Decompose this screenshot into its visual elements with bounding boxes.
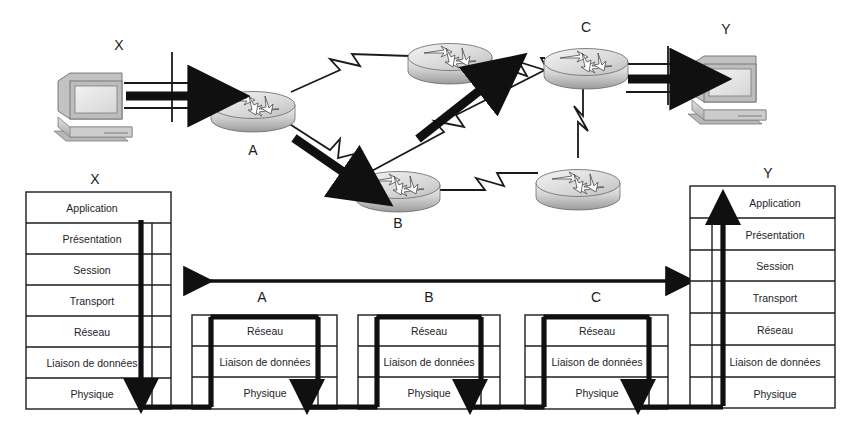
stack-x-layer-application: Application [66, 202, 118, 214]
stack-y-layer-session: Session [756, 260, 794, 272]
link-c-lowerright [574, 80, 588, 158]
osi-network-diagram: X A C B Y X Application Présentation [0, 0, 858, 429]
stack-c-title: C [591, 289, 601, 305]
stack-c-layer-liaison: Liaison de données [551, 356, 642, 368]
flow-b-to-c-arrow [418, 84, 488, 139]
stack-a-title: A [257, 289, 267, 305]
stack-b-layer-reseau: Réseau [411, 325, 447, 337]
stack-y-layer-application: Application [749, 197, 801, 209]
link-b-lowerright [438, 173, 538, 190]
stack-x-layer-liaison: Liaison de données [46, 357, 137, 369]
stack-c-layer-reseau: Réseau [579, 325, 615, 337]
topology-label-x: X [114, 37, 124, 53]
stack-c-layer-physique: Physique [575, 387, 618, 399]
diagram-canvas: X A C B Y X Application Présentation [0, 0, 858, 429]
stack-y-layer-presentation: Présentation [746, 229, 805, 241]
stack-y-layer-reseau: Réseau [757, 324, 793, 336]
topology-label-b: B [393, 215, 402, 231]
router-icon-a [211, 92, 295, 133]
stack-x-layer-session: Session [73, 264, 111, 276]
stack-x-layer-physique: Physique [70, 388, 113, 400]
desktop-computer-icon-x [54, 73, 132, 141]
stack-b-layer-physique: Physique [407, 387, 450, 399]
flow-arrows [126, 79, 682, 178]
stack-y: Y Application Présentation Session Trans… [690, 165, 835, 408]
topology-label-a: A [248, 142, 258, 158]
link-b-c [368, 70, 545, 173]
stack-a-layer-physique: Physique [243, 387, 286, 399]
stack-x-layer-presentation: Présentation [63, 233, 122, 245]
stack-b-title: B [424, 289, 433, 305]
stack-x-layer-transport: Transport [70, 295, 115, 307]
stack-b-layer-liaison: Liaison de données [383, 356, 474, 368]
flow-a-to-b-arrow [294, 138, 352, 178]
router-icon-c [544, 49, 628, 90]
stack-y-title: Y [763, 165, 773, 181]
router-icon-top [408, 44, 492, 85]
stack-x-layer-reseau: Réseau [74, 326, 110, 338]
stack-a-layer-liaison: Liaison de données [219, 356, 310, 368]
router-icon-b [356, 172, 440, 213]
stack-y-layer-physique: Physique [753, 388, 796, 400]
stack-x: X Application Présentation Session Trans… [26, 171, 171, 409]
topology-label-y: Y [721, 21, 731, 37]
topology-label-c: C [581, 19, 591, 35]
router-icon-lower-right [536, 170, 620, 211]
link-a-toprouter [291, 54, 410, 92]
stack-y-layer-transport: Transport [753, 292, 798, 304]
stack-y-layer-liaison: Liaison de données [729, 356, 820, 368]
stack-a-layer-reseau: Réseau [247, 325, 283, 337]
stack-x-title: X [90, 171, 100, 187]
stack-router-a: A Réseau Liaison de données Physique [192, 289, 337, 409]
desktop-computer-icon-y [688, 56, 766, 124]
